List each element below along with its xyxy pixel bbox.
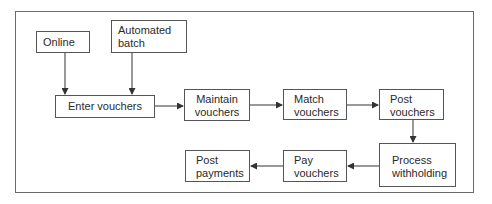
node-pay-vouchers: Pay vouchers — [283, 150, 347, 182]
node-pay-vouchers-line2: vouchers — [294, 167, 340, 180]
node-post-payments: Post payments — [185, 150, 250, 182]
node-process-withholding-line1: Process — [392, 154, 449, 167]
node-automated-batch-line1: Automated — [118, 24, 180, 37]
node-match-vouchers: Match vouchers — [283, 89, 347, 120]
node-online-label: Online — [43, 36, 75, 49]
node-post-payments-line1: Post — [196, 154, 243, 167]
node-enter-vouchers-label: Enter vouchers — [68, 100, 142, 113]
node-online: Online — [36, 31, 90, 53]
node-match-vouchers-line1: Match — [294, 93, 340, 106]
node-maintain-vouchers-line1: Maintain — [191, 93, 243, 106]
node-automated-batch: Automated batch — [111, 20, 187, 53]
node-pay-vouchers-line1: Pay — [294, 154, 340, 167]
node-match-vouchers-line2: vouchers — [294, 106, 340, 119]
node-maintain-vouchers: Maintain vouchers — [184, 89, 250, 121]
node-post-vouchers: Post vouchers — [379, 89, 444, 120]
node-automated-batch-line2: batch — [118, 37, 180, 50]
node-process-withholding: Process withholding — [379, 143, 456, 187]
node-maintain-vouchers-line2: vouchers — [191, 106, 243, 119]
node-post-vouchers-line1: Post — [390, 93, 437, 106]
node-process-withholding-line2: withholding — [392, 167, 449, 180]
node-post-payments-line2: payments — [196, 167, 243, 180]
node-post-vouchers-line2: vouchers — [390, 106, 437, 119]
node-enter-vouchers: Enter vouchers — [55, 95, 155, 118]
